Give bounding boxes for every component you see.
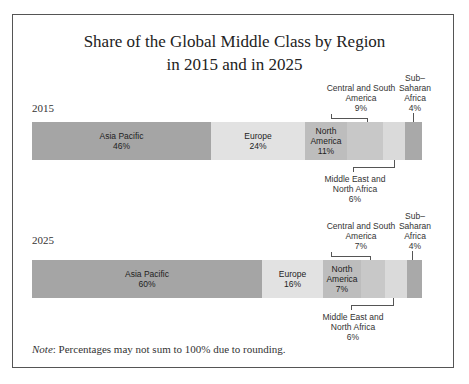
seg-name: Europe	[244, 131, 271, 141]
segment-asia-pacific: Asia Pacific60%	[32, 260, 262, 298]
ssa-name-3: Africa	[392, 93, 438, 103]
seg-pct: 11%	[310, 146, 341, 156]
segment-north-america: NorthAmerica7%	[323, 260, 361, 298]
chart-title: Share of the Global Middle Class by Regi…	[0, 30, 469, 76]
ssa-pct: 4%	[392, 103, 438, 113]
leader-line	[353, 167, 395, 168]
label-ssa-2025: Sub– Saharan Africa 4%	[392, 211, 438, 251]
segment-europe: Europe24%	[211, 122, 305, 160]
segment-mena	[385, 260, 407, 298]
segment-north-america: NorthAmerica11%	[305, 122, 347, 160]
ssa-name-2: Saharan	[392, 221, 438, 231]
mena-pct: 6%	[305, 194, 405, 204]
mena-name-2: North Africa	[305, 184, 405, 194]
label-mena-2015: Middle East and North Africa 6%	[305, 174, 405, 204]
bar-2015: Asia Pacific46% Europe24% NorthAmerica11…	[32, 122, 422, 160]
note-text: : Percentages may not sum to 100% due to…	[53, 343, 286, 355]
ssa-pct: 4%	[392, 241, 438, 251]
seg-pct: 16%	[279, 279, 306, 289]
ssa-name-1: Sub–	[392, 73, 438, 83]
label-mena-2025: Middle East and North Africa 6%	[303, 312, 403, 342]
year-label-2015: 2015	[32, 102, 54, 114]
seg-name-2: America	[326, 274, 357, 284]
seg-pct: 60%	[125, 279, 169, 289]
mena-name-1: Middle East and	[303, 312, 403, 322]
title-line-1: Share of the Global Middle Class by Regi…	[0, 30, 469, 53]
leader-line	[331, 256, 371, 257]
note-label: Note	[32, 343, 53, 355]
segment-sub-saharan-africa	[407, 260, 422, 298]
ssa-name-1: Sub–	[392, 211, 438, 221]
leader-line	[353, 167, 354, 172]
seg-pct: 24%	[244, 141, 271, 151]
segment-asia-pacific: Asia Pacific46%	[32, 122, 211, 160]
leader-line	[351, 305, 352, 310]
mena-name-2: North Africa	[303, 322, 403, 332]
ssa-name-3: Africa	[392, 231, 438, 241]
year-label-2025: 2025	[32, 234, 54, 246]
segment-europe: Europe16%	[262, 260, 323, 298]
segment-central-south-america	[347, 122, 383, 160]
segment-sub-saharan-africa	[405, 122, 422, 160]
leader-line	[331, 118, 368, 119]
seg-name-2: America	[310, 136, 341, 146]
seg-pct: 7%	[326, 284, 357, 294]
segment-central-south-america	[361, 260, 385, 298]
bar-2025: Asia Pacific60% Europe16% NorthAmerica7%	[32, 260, 422, 298]
mena-pct: 6%	[303, 332, 403, 342]
mena-name-1: Middle East and	[305, 174, 405, 184]
seg-name: Asia Pacific	[125, 269, 169, 279]
seg-name-1: North	[326, 264, 357, 274]
leader-line	[351, 305, 394, 306]
seg-name: Asia Pacific	[100, 131, 144, 141]
footnote: Note: Percentages may not sum to 100% du…	[32, 343, 286, 355]
seg-name: Europe	[279, 269, 306, 279]
seg-name-1: North	[310, 126, 341, 136]
ssa-name-2: Saharan	[392, 83, 438, 93]
segment-mena	[383, 122, 405, 160]
label-ssa-2015: Sub– Saharan Africa 4%	[392, 73, 438, 113]
seg-pct: 46%	[100, 141, 144, 151]
